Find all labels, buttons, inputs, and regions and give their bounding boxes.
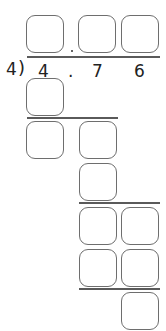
quotient-box-ones[interactable] xyxy=(26,15,64,53)
work-box-row2-tenths[interactable] xyxy=(79,121,117,159)
work-box-row6-remainder[interactable] xyxy=(121,292,159,330)
work-box-row4-hundredths[interactable] xyxy=(121,207,159,245)
quotient-box-tenths[interactable] xyxy=(78,15,116,53)
divisor: 4 xyxy=(6,59,17,79)
work-box-row5-hundredths[interactable] xyxy=(121,249,159,287)
quotient-decimal-point xyxy=(71,50,73,52)
work-box-row3-tenths[interactable] xyxy=(79,163,117,201)
dividend-digit-hundredths: 6 xyxy=(134,61,145,81)
division-bracket: ) xyxy=(18,58,25,78)
work-box-row1-ones[interactable] xyxy=(26,78,64,116)
work-box-row2-ones[interactable] xyxy=(26,121,64,159)
dividend-decimal-point: . xyxy=(68,61,73,81)
subtraction-line-3 xyxy=(79,288,160,290)
dividend-digit-tenths: 7 xyxy=(92,61,103,81)
work-box-row5-tenths[interactable] xyxy=(79,249,117,287)
subtraction-line-1 xyxy=(27,117,118,119)
subtraction-line-2 xyxy=(79,202,160,204)
division-bar xyxy=(27,56,160,58)
quotient-box-hundredths[interactable] xyxy=(121,15,159,53)
work-box-row4-tenths[interactable] xyxy=(79,207,117,245)
